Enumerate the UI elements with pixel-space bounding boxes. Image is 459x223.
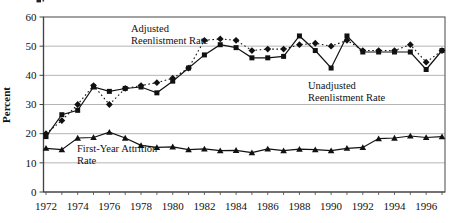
x-tick-label-1988: 1988 (288, 200, 311, 212)
x-tick-label-1984: 1984 (225, 200, 248, 212)
square-marker (249, 55, 254, 60)
series-label-1-line-1: Reenlistment Rate (308, 92, 386, 103)
x-tick-label-1982: 1982 (193, 200, 215, 212)
square-marker (75, 108, 80, 113)
square-marker (376, 50, 381, 55)
square-marker (202, 52, 207, 57)
square-marker (424, 67, 429, 72)
square-marker (170, 79, 175, 84)
series-label-0-line-1: Reenlistment Rate (131, 35, 209, 46)
y-axis-title: Percent (0, 87, 12, 123)
x-tick-label-1974: 1974 (67, 200, 90, 212)
y-tick-label-40: 40 (26, 69, 38, 81)
x-tick-label-1992: 1992 (352, 200, 374, 212)
diamond-marker (296, 41, 303, 48)
y-tick-label-10: 10 (26, 157, 38, 169)
square-marker (91, 85, 96, 90)
diamond-marker (264, 46, 271, 53)
square-marker (154, 90, 159, 95)
cropped-text-fragment (37, 0, 42, 2)
diamond-marker (233, 37, 240, 44)
square-marker (265, 55, 270, 60)
square-marker (360, 50, 365, 55)
x-tick-label-1978: 1978 (130, 200, 153, 212)
square-marker (344, 33, 349, 38)
reenlistment-attrition-line-chart: 0102030405060197219741976197819801982198… (0, 0, 459, 223)
square-marker (297, 33, 302, 38)
x-tick-label-1994: 1994 (383, 200, 406, 212)
square-marker (313, 48, 318, 53)
x-tick-label-1986: 1986 (257, 200, 280, 212)
triangle-marker (106, 129, 113, 135)
x-tick-label-1976: 1976 (98, 200, 121, 212)
diamond-marker (312, 40, 319, 47)
diamond-marker (153, 79, 160, 86)
square-marker (234, 45, 239, 50)
y-tick-label-60: 60 (26, 11, 38, 23)
series-label-2-line-0: First-Year Attrition (77, 143, 158, 154)
diamond-marker (280, 46, 287, 53)
diamond-marker (328, 43, 335, 50)
square-marker (408, 50, 413, 55)
series-label-1-line-0: Unadjusted (308, 80, 357, 91)
x-tick-label-1972: 1972 (35, 200, 57, 212)
y-tick-label-0: 0 (31, 186, 37, 198)
cropped-text-fragment (43, 0, 45, 2)
y-tick-label-50: 50 (26, 40, 38, 52)
square-marker (329, 66, 334, 71)
square-marker (139, 85, 144, 90)
y-tick-label-20: 20 (26, 127, 38, 139)
square-marker (123, 86, 128, 91)
series-label-2-line-1: Rate (77, 155, 97, 166)
square-marker (392, 50, 397, 55)
diamond-marker (217, 35, 224, 42)
square-marker (44, 134, 49, 139)
scanned-figure-container: 0102030405060197219741976197819801982198… (0, 0, 459, 223)
square-marker (440, 48, 445, 53)
square-marker (107, 89, 112, 94)
series-line-1 (46, 36, 442, 137)
x-tick-label-1990: 1990 (320, 200, 343, 212)
square-marker (218, 42, 223, 47)
square-marker (186, 66, 191, 71)
x-tick-label-1996: 1996 (415, 200, 438, 212)
x-tick-label-1980: 1980 (162, 200, 185, 212)
series-label-0-line-0: Adjusted (131, 23, 170, 34)
square-marker (281, 54, 286, 59)
y-tick-label-30: 30 (26, 98, 38, 110)
square-marker (59, 112, 64, 117)
diamond-marker (249, 47, 256, 54)
